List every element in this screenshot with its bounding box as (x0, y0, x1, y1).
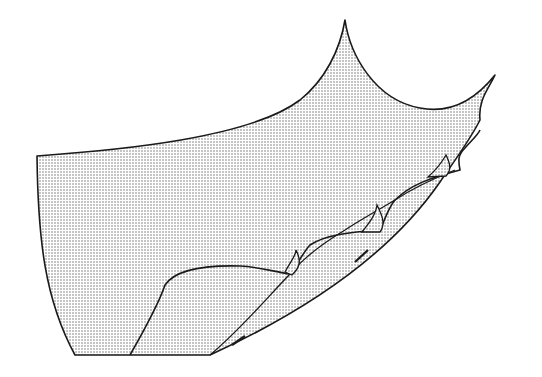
surface-region (37, 20, 495, 355)
surface-diagram (0, 0, 542, 377)
